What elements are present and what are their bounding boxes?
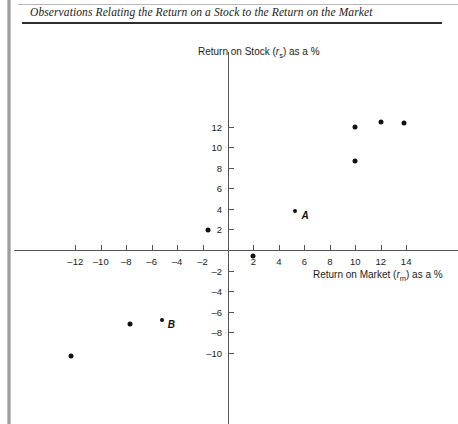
y-tick-mark (229, 127, 234, 128)
data-point (251, 254, 256, 259)
y-tick-label: –2 (196, 265, 222, 276)
x-axis-title: Return on Market (rm) as a % (313, 269, 443, 283)
y-axis-line (228, 52, 229, 424)
y-tick-mark (229, 312, 234, 313)
x-tick-mark (381, 245, 382, 250)
title-underline-rule (22, 22, 442, 24)
x-tick-mark (177, 245, 178, 250)
y-tick-mark (229, 209, 234, 210)
point-annotation-b: B (168, 319, 175, 330)
figure-page: Observations Relating the Return on a St… (0, 0, 458, 424)
data-point (378, 119, 383, 124)
x-tick-label: 4 (276, 256, 281, 267)
y-tick-label: 10 (196, 142, 222, 153)
data-point (128, 321, 133, 326)
x-tick-mark (406, 245, 407, 250)
y-tick-mark (229, 147, 234, 148)
x-tick-label: 10 (350, 256, 361, 267)
y-tick-mark (229, 229, 234, 230)
y-tick-mark (229, 188, 234, 189)
x-tick-mark (152, 245, 153, 250)
y-tick-label: –6 (196, 306, 222, 317)
y-tick-mark (229, 291, 234, 292)
x-tick-label: –10 (93, 256, 109, 267)
figure-title: Observations Relating the Return on a St… (30, 6, 372, 18)
data-point (401, 120, 406, 125)
x-tick-label: 12 (375, 256, 386, 267)
y-tick-mark (229, 353, 234, 354)
y-tick-label: 4 (196, 203, 222, 214)
page-top-rule (18, 4, 458, 5)
data-point (69, 353, 74, 358)
data-point (353, 158, 358, 163)
y-tick-mark (229, 332, 234, 333)
y-tick-label: –8 (196, 327, 222, 338)
x-tick-mark (203, 245, 204, 250)
x-tick-mark (279, 245, 280, 250)
point-annotation-a: A (301, 210, 308, 221)
x-tick-mark (355, 245, 356, 250)
x-tick-label: –12 (67, 256, 83, 267)
y-tick-label: 8 (196, 162, 222, 173)
x-tick-mark (126, 245, 127, 250)
y-tick-mark (229, 168, 234, 169)
x-tick-label: 8 (327, 256, 332, 267)
y-tick-label: –10 (196, 347, 222, 358)
x-tick-mark (330, 245, 331, 250)
y-tick-mark (229, 271, 234, 272)
x-tick-label: –6 (146, 256, 157, 267)
x-tick-label: –8 (121, 256, 132, 267)
x-tick-mark (304, 245, 305, 250)
data-point (160, 318, 164, 322)
data-point (353, 124, 358, 129)
x-axis-line (14, 250, 458, 251)
x-tick-mark (75, 245, 76, 250)
y-tick-label: 12 (196, 121, 222, 132)
y-tick-label: –4 (196, 286, 222, 297)
x-tick-mark (101, 245, 102, 250)
x-tick-mark (253, 245, 254, 250)
x-tick-label: 14 (401, 256, 412, 267)
y-axis-title: Return on Stock (rs) as a % (198, 46, 320, 60)
data-point (293, 209, 297, 213)
data-point (205, 228, 210, 233)
x-tick-label: –4 (172, 256, 183, 267)
scatter-plot: –12–10–8–6–4–22468101214 –10–8–6–4–22468… (0, 28, 458, 424)
y-tick-label: 6 (196, 183, 222, 194)
x-tick-label: 6 (302, 256, 307, 267)
